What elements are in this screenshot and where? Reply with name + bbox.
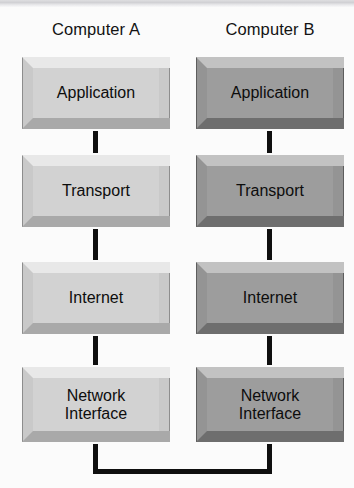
connector-a-transport-internet [93, 229, 98, 260]
layer-label: Transport [196, 155, 344, 227]
layer-label: Internet [22, 262, 170, 334]
layer-box-b-internet[interactable]: Internet [196, 262, 344, 334]
layer-box-a-internet[interactable]: Internet [22, 262, 170, 334]
layer-box-b-application[interactable]: Application [196, 57, 344, 129]
layer-label: Network Interface [22, 367, 170, 442]
scan-artifact-strip [0, 0, 354, 7]
layer-label: Network Interface [196, 367, 344, 442]
connector-b-application-transport [267, 131, 272, 153]
network-link-horizontal [93, 469, 272, 474]
layer-box-b-network-interface[interactable]: Network Interface [196, 367, 344, 442]
connector-b-internet-network-interface [267, 336, 272, 365]
network-link-right-leg [267, 444, 272, 474]
column-title-computer-a: Computer A [22, 20, 170, 39]
layer-box-a-network-interface[interactable]: Network Interface [22, 367, 170, 442]
layer-label: Application [196, 57, 344, 129]
tcp-ip-stack-diagram: Computer A Computer B Application Transp… [0, 0, 354, 488]
layer-box-a-application[interactable]: Application [22, 57, 170, 129]
layer-box-a-transport[interactable]: Transport [22, 155, 170, 227]
column-title-computer-b: Computer B [196, 20, 344, 39]
connector-a-internet-network-interface [93, 336, 98, 365]
connector-b-transport-internet [267, 229, 272, 260]
layer-label: Transport [22, 155, 170, 227]
layer-label: Internet [196, 262, 344, 334]
layer-box-b-transport[interactable]: Transport [196, 155, 344, 227]
connector-a-application-transport [93, 131, 98, 153]
layer-label: Application [22, 57, 170, 129]
